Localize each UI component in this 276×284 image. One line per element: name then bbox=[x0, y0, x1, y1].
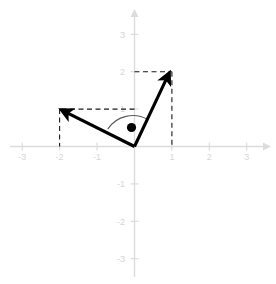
y-tick-label-2: 2 bbox=[120, 67, 125, 77]
x-axis-tick-labels: -3 -2 -1 1 2 3 bbox=[18, 152, 249, 162]
y-tick-label-3: 3 bbox=[120, 30, 125, 40]
x-tick-label--2: -2 bbox=[56, 152, 64, 162]
y-tick-label--2: -2 bbox=[117, 217, 125, 227]
x-tick-label-2: 2 bbox=[207, 152, 212, 162]
vector-u bbox=[135, 75, 169, 147]
x-tick-label--1: -1 bbox=[93, 152, 101, 162]
x-tick-label-3: 3 bbox=[244, 152, 249, 162]
x-tick-label--3: -3 bbox=[18, 152, 26, 162]
coordinate-plane: -3 -2 -1 1 2 3 3 2 1 -1 -2 -3 bbox=[0, 0, 276, 284]
vector-diagram: -3 -2 -1 1 2 3 3 2 1 -1 -2 -3 bbox=[0, 0, 276, 284]
x-tick-label-1: 1 bbox=[169, 152, 174, 162]
angle-dot bbox=[127, 123, 136, 132]
y-tick-label--1: -1 bbox=[117, 179, 125, 189]
y-tick-label--3: -3 bbox=[117, 254, 125, 264]
vector-group bbox=[63, 75, 168, 147]
vector-v bbox=[63, 111, 134, 147]
guide-lines bbox=[60, 72, 172, 147]
axis-group bbox=[10, 16, 264, 277]
